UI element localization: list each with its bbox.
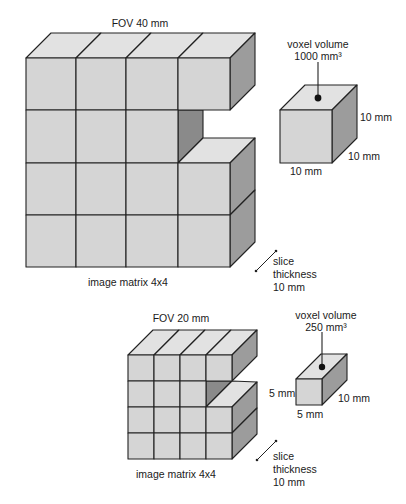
slice-label-bottom-2: thickness — [273, 463, 317, 475]
voxel-width-label-top: 10 mm — [290, 165, 322, 177]
large-voxel-stack — [26, 33, 255, 267]
voxel-depth-label-bottom: 10 mm — [338, 392, 370, 404]
fov-label-top: FOV 40 mm — [112, 17, 169, 29]
voxel-depth-label-top: 10 mm — [348, 150, 380, 162]
slice-label-bottom-3: 10 mm — [273, 476, 305, 488]
matrix-label-bottom: image matrix 4x4 — [136, 468, 216, 480]
voxel-center-dot-bottom-icon — [319, 364, 325, 370]
voxel-volume-title-bottom: voxel volume — [295, 309, 356, 321]
slice-label-bottom-1: slice — [273, 450, 294, 462]
voxel-center-dot-icon — [315, 95, 322, 102]
front-grid — [26, 58, 230, 267]
small-front-grid — [128, 355, 232, 459]
voxel-volume-value-bottom: 250 mm³ — [305, 321, 347, 333]
matrix-label-top: image matrix 4x4 — [88, 276, 168, 288]
large-voxel-cube — [280, 62, 357, 163]
small-voxel-stack — [128, 330, 257, 459]
fov-label-bottom: FOV 20 mm — [153, 312, 210, 324]
slice-label-top-1: slice — [273, 255, 294, 267]
voxel-width-label-bottom: 5 mm — [297, 408, 324, 420]
voxel-diagram: FOV 40 mm image matrix 4x4 slice thickne… — [0, 0, 406, 504]
slice-label-top-3: 10 mm — [273, 281, 305, 293]
voxel-volume-title-top: voxel volume — [287, 38, 348, 50]
voxel-height-label-top: 10 mm — [360, 111, 392, 123]
slice-label-top-2: thickness — [273, 268, 317, 280]
voxel-volume-value-top: 1000 mm³ — [294, 50, 342, 62]
voxel-height-label-bottom: 5 mm — [269, 387, 296, 399]
